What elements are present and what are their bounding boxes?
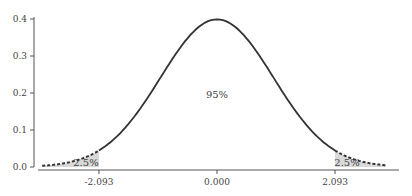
x-tick-label: -2.093 [85, 177, 114, 187]
y-tick-label: 0.3 [13, 51, 28, 61]
normal-distribution-chart: 0.00.10.20.30.4 -2.0930.0002.093 2.5%95%… [0, 0, 412, 196]
center-curve [99, 19, 335, 150]
left-tail-label: 2.5% [73, 157, 98, 168]
y-tick-label: 0.0 [13, 162, 28, 172]
y-tick-label: 0.2 [13, 88, 27, 98]
y-tick-label: 0.4 [13, 14, 28, 24]
x-tick-label: 0.000 [204, 177, 230, 187]
center-label: 95% [206, 89, 228, 100]
y-axis: 0.00.10.20.30.4 [13, 14, 34, 172]
region-labels: 2.5%95%2.5% [73, 89, 359, 168]
x-tick-label: 2.093 [322, 177, 348, 187]
y-tick-label: 0.1 [13, 125, 27, 135]
x-axis: -2.0930.0002.093 [38, 170, 399, 187]
right-tail-label: 2.5% [334, 157, 359, 168]
